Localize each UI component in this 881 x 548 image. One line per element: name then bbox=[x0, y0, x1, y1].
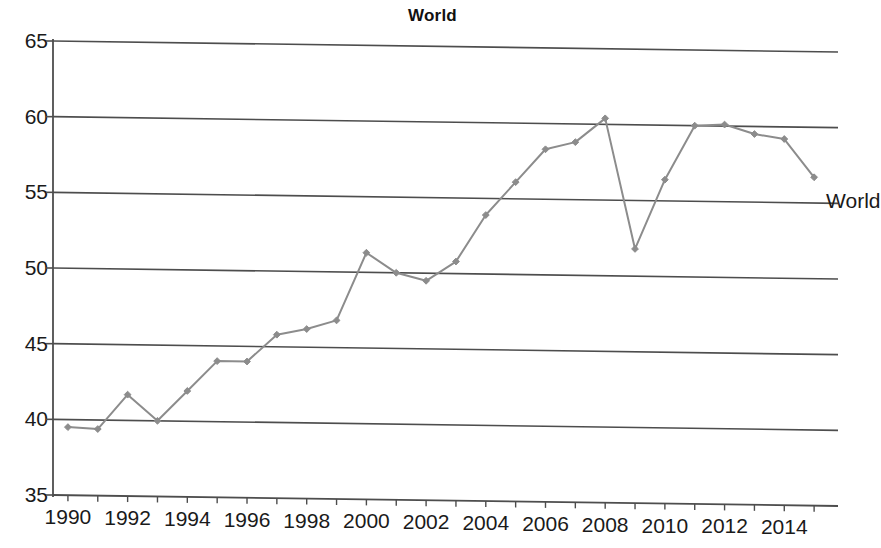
gridline-55 bbox=[53, 192, 838, 203]
gridline-45 bbox=[53, 344, 838, 355]
data-point-marker bbox=[65, 424, 72, 431]
data-point-marker bbox=[333, 317, 340, 324]
y-axis-ticks bbox=[46, 41, 53, 495]
data-point-marker bbox=[632, 246, 639, 253]
gridline-50 bbox=[53, 268, 838, 279]
data-point-marker bbox=[721, 121, 728, 128]
gridline-40 bbox=[53, 419, 838, 430]
series-label-world: World bbox=[826, 189, 880, 213]
gridline-65 bbox=[53, 41, 838, 52]
x-axis-line bbox=[53, 495, 838, 506]
gridlines bbox=[53, 41, 838, 430]
data-point-marker bbox=[303, 326, 310, 333]
gridline-60 bbox=[53, 117, 838, 128]
axis-lines bbox=[53, 39, 838, 506]
data-point-marker bbox=[751, 131, 758, 138]
